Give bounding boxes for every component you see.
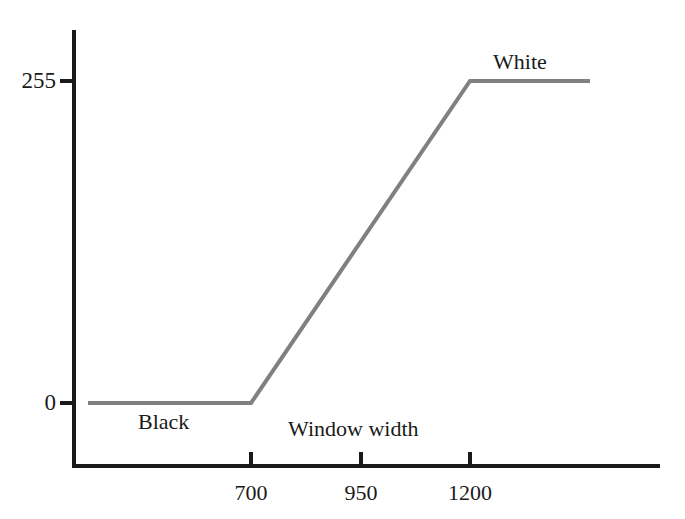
- annotation-white: White: [493, 51, 547, 73]
- transfer-function-curve: [88, 81, 590, 403]
- y-axis-tick-label-255: 255: [8, 69, 56, 92]
- x-axis-tick-label-700: 700: [211, 482, 291, 504]
- y-axis-tick-label-0: 0: [8, 391, 56, 414]
- annotation-black: Black: [138, 411, 189, 433]
- x-axis-tick-label-1200: 1200: [425, 482, 515, 504]
- x-axis-title: Window width: [288, 418, 419, 440]
- window-level-transfer-function-chart: 255 0 700 950 1200 White Black Window wi…: [0, 0, 685, 519]
- chart-plot-area: [0, 0, 685, 519]
- x-axis-tick-label-950: 950: [321, 482, 401, 504]
